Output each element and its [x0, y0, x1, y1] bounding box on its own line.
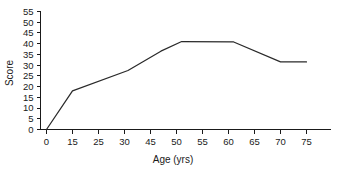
y-axis-tick-label: 40	[23, 38, 34, 49]
y-axis-tick-label: 35	[23, 49, 34, 60]
x-axis-tick-label: 55	[197, 136, 208, 147]
y-axis-tick-label: 5	[28, 113, 33, 124]
x-axis-tick-label: 65	[249, 136, 260, 147]
x-axis-tick-label: 0	[44, 136, 49, 147]
chart-canvas: 0510152025303540455055 01525304550556065…	[0, 0, 341, 171]
y-axis-tick-label: 25	[23, 70, 34, 81]
x-axis-tick-label: 70	[275, 136, 286, 147]
x-axis-tick-label: 15	[67, 136, 78, 147]
x-axis-tick-label: 45	[145, 136, 156, 147]
x-axis-title: Age (yrs)	[153, 154, 194, 165]
y-axis-tick-label: 20	[23, 81, 34, 92]
x-axis-tick-label: 30	[119, 136, 130, 147]
y-axis-tick-label: 30	[23, 60, 34, 71]
x-axis-tick-label: 75	[301, 136, 312, 147]
y-axis-tick-label: 50	[23, 17, 34, 28]
y-axis-tick-label: 10	[23, 102, 34, 113]
line-chart: 0510152025303540455055 01525304550556065…	[0, 0, 341, 171]
x-axis-tick-label: 50	[171, 136, 182, 147]
y-axis-title: Score	[4, 60, 15, 87]
y-axis-tick-label: 15	[23, 92, 34, 103]
y-axis-tick-label: 45	[23, 27, 34, 38]
y-axis-tick-label: 55	[23, 6, 34, 17]
x-axis-tick-label: 25	[93, 136, 104, 147]
y-axis-tick-label: 0	[28, 124, 33, 135]
x-axis-tick-label: 60	[223, 136, 234, 147]
